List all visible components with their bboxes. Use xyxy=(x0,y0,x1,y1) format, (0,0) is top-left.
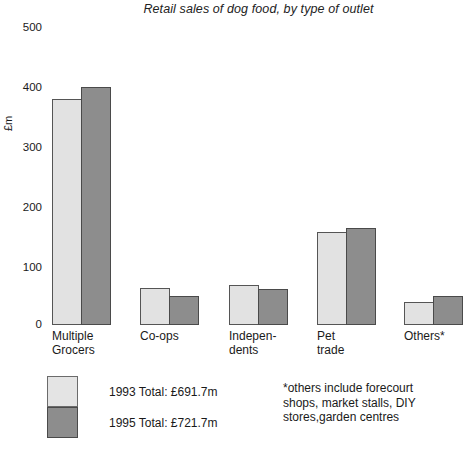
x-tick-label: Indepen- dents xyxy=(229,330,276,357)
x-tick-label: Others* xyxy=(404,330,445,344)
footnote-text: *others include forecourt shops, market … xyxy=(283,381,463,425)
bar-1993[interactable] xyxy=(140,288,170,325)
bar-group xyxy=(229,25,288,325)
legend-item: 1995 Total: £721.7m xyxy=(47,407,262,438)
legend-label-1993: 1993 Total: £691.7m xyxy=(109,385,218,399)
bar-group xyxy=(404,25,463,325)
bar-1993[interactable] xyxy=(317,232,347,325)
legend-item: 1993 Total: £691.7m xyxy=(47,376,262,407)
bar-1995[interactable] xyxy=(346,228,376,325)
bar-1993[interactable] xyxy=(229,285,259,325)
bar-1995[interactable] xyxy=(169,296,199,325)
bar-group xyxy=(52,25,111,325)
bar-1995[interactable] xyxy=(433,296,463,325)
x-axis-labels: Multiple GrocersCo-opsIndepen- dentsPet … xyxy=(0,330,475,370)
bar-1995[interactable] xyxy=(258,289,288,325)
bar-group xyxy=(140,25,199,325)
chart-plot-area: £m 500 400 300 200 100 0 Multiple Grocer… xyxy=(0,0,475,340)
x-tick-label: Co-ops xyxy=(140,330,179,344)
bar-series-layer xyxy=(0,0,475,340)
bar-1993[interactable] xyxy=(404,302,434,325)
bar-group xyxy=(317,25,376,325)
chart-legend: 1993 Total: £691.7m 1995 Total: £721.7m xyxy=(47,376,262,442)
bar-1995[interactable] xyxy=(81,87,111,325)
x-tick-label: Pet trade xyxy=(317,330,344,357)
x-tick-label: Multiple Grocers xyxy=(52,330,95,357)
legend-swatch-1993 xyxy=(47,376,78,407)
legend-swatch-1995 xyxy=(47,407,78,438)
bar-1993[interactable] xyxy=(52,99,82,325)
legend-label-1995: 1995 Total: £721.7m xyxy=(109,416,218,430)
